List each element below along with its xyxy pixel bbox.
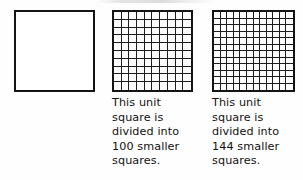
grid-cell bbox=[176, 12, 184, 20]
grid-cell bbox=[122, 51, 130, 59]
grid-cell bbox=[114, 43, 122, 51]
grid-cell bbox=[260, 84, 267, 91]
grid-cell bbox=[122, 28, 130, 36]
grid-cell bbox=[137, 28, 145, 36]
grid-cell bbox=[183, 43, 191, 51]
grid-cell bbox=[152, 35, 160, 43]
grid-cell bbox=[160, 35, 168, 43]
grid-cell bbox=[183, 82, 191, 90]
unit-square-divided-144 bbox=[212, 10, 295, 92]
grid-cell bbox=[247, 84, 254, 91]
grid-cell bbox=[183, 12, 191, 20]
unit-square-divided-100 bbox=[112, 10, 193, 92]
grid-cell bbox=[286, 84, 293, 91]
grid-cell bbox=[168, 67, 176, 75]
grid-cell bbox=[122, 59, 130, 67]
panel-unit-square-plain bbox=[0, 0, 108, 180]
grid-cell bbox=[168, 74, 176, 82]
grid-cell bbox=[273, 84, 280, 91]
grid-144 bbox=[214, 12, 293, 90]
figure-root: This unit square is divided into 100 sma… bbox=[0, 0, 303, 180]
grid-cell bbox=[114, 20, 122, 28]
grid-cell bbox=[122, 82, 130, 90]
grid-cell bbox=[129, 28, 137, 36]
grid-cell bbox=[114, 82, 122, 90]
grid-cell bbox=[129, 20, 137, 28]
grid-cell bbox=[152, 82, 160, 90]
grid-cell bbox=[183, 20, 191, 28]
grid-cell bbox=[145, 28, 153, 36]
grid-cell bbox=[145, 59, 153, 67]
unit-square-plain bbox=[14, 10, 95, 92]
grid-cell bbox=[152, 67, 160, 75]
grid-cell bbox=[152, 12, 160, 20]
grid-cell bbox=[254, 84, 261, 91]
grid-cell bbox=[183, 28, 191, 36]
grid-cell bbox=[129, 12, 137, 20]
grid-cell bbox=[280, 84, 287, 91]
grid-cell bbox=[137, 51, 145, 59]
grid-cell bbox=[152, 20, 160, 28]
grid-cell bbox=[152, 74, 160, 82]
grid-cell bbox=[234, 84, 241, 91]
grid-cell bbox=[160, 28, 168, 36]
grid-cell bbox=[176, 74, 184, 82]
grid-100 bbox=[114, 12, 191, 90]
grid-cell bbox=[160, 67, 168, 75]
grid-cell bbox=[221, 84, 228, 91]
grid-cell bbox=[183, 59, 191, 67]
grid-cell bbox=[114, 67, 122, 75]
grid-cell bbox=[183, 74, 191, 82]
grid-cell bbox=[176, 20, 184, 28]
grid-cell bbox=[137, 59, 145, 67]
grid-cell bbox=[137, 67, 145, 75]
grid-cell bbox=[240, 84, 247, 91]
grid-cell bbox=[129, 51, 137, 59]
grid-cell bbox=[168, 12, 176, 20]
grid-cell bbox=[168, 82, 176, 90]
grid-cell bbox=[168, 28, 176, 36]
grid-cell bbox=[168, 59, 176, 67]
grid-cell bbox=[145, 74, 153, 82]
grid-cell bbox=[137, 12, 145, 20]
grid-cell bbox=[137, 35, 145, 43]
grid-cell bbox=[183, 35, 191, 43]
grid-cell bbox=[168, 20, 176, 28]
grid-cell bbox=[176, 35, 184, 43]
grid-cell bbox=[129, 43, 137, 51]
grid-cell bbox=[160, 20, 168, 28]
grid-cell bbox=[129, 59, 137, 67]
grid-cell bbox=[176, 51, 184, 59]
grid-cell bbox=[168, 43, 176, 51]
grid-cell bbox=[122, 35, 130, 43]
grid-cell bbox=[114, 28, 122, 36]
grid-cell bbox=[152, 28, 160, 36]
grid-cell bbox=[145, 12, 153, 20]
grid-cell bbox=[183, 51, 191, 59]
grid-cell bbox=[152, 43, 160, 51]
grid-cell bbox=[168, 35, 176, 43]
grid-cell bbox=[168, 51, 176, 59]
caption-144: This unit square is divided into 144 sma… bbox=[212, 96, 303, 169]
grid-cell bbox=[176, 28, 184, 36]
grid-cell bbox=[152, 51, 160, 59]
grid-cell bbox=[160, 82, 168, 90]
grid-cell bbox=[145, 51, 153, 59]
grid-cell bbox=[145, 82, 153, 90]
panel-unit-square-100: This unit square is divided into 100 sma… bbox=[108, 0, 208, 180]
grid-cell bbox=[160, 12, 168, 20]
grid-cell bbox=[137, 43, 145, 51]
grid-cell bbox=[129, 67, 137, 75]
panel-unit-square-144: This unit square is divided into 144 sma… bbox=[208, 0, 303, 180]
grid-cell bbox=[129, 82, 137, 90]
grid-cell bbox=[176, 82, 184, 90]
grid-cell bbox=[137, 74, 145, 82]
grid-cell bbox=[114, 51, 122, 59]
grid-cell bbox=[145, 20, 153, 28]
grid-cell bbox=[114, 59, 122, 67]
grid-cell bbox=[114, 35, 122, 43]
grid-cell bbox=[145, 67, 153, 75]
grid-cell bbox=[160, 74, 168, 82]
grid-cell bbox=[160, 51, 168, 59]
grid-cell bbox=[176, 43, 184, 51]
